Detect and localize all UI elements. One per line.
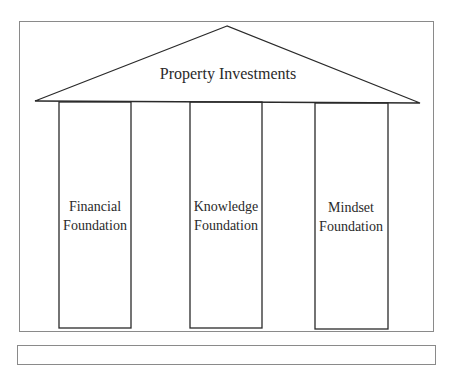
pillar-label-line1: Financial <box>55 197 135 216</box>
pillar-label-line1: Knowledge <box>186 197 266 216</box>
pillar-label-line2: Foundation <box>186 216 266 235</box>
pillar-label-financial: Financial Foundation <box>55 197 135 235</box>
pillar-label-line2: Foundation <box>55 216 135 235</box>
pillar-label-knowledge: Knowledge Foundation <box>186 197 266 235</box>
pillar-label-line1: Mindset <box>311 198 391 217</box>
roof-label: Property Investments <box>130 64 326 83</box>
pillar-label-mindset: Mindset Foundation <box>311 198 391 236</box>
pillar-label-line2: Foundation <box>311 217 391 236</box>
